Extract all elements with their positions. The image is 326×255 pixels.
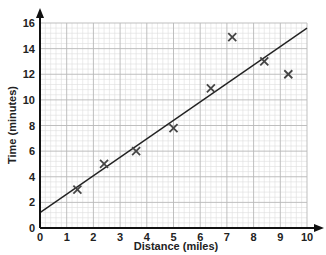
x-tick-label: 3 (117, 231, 123, 243)
x-tick-label: 7 (224, 231, 230, 243)
y-tick-label: 16 (23, 17, 35, 29)
x-tick-label: 9 (277, 231, 283, 243)
x-axis-arrow-icon (314, 224, 324, 232)
y-axis-arrow-icon (36, 8, 44, 18)
y-tick-label: 10 (23, 94, 35, 106)
y-axis-title: Time (minutes) (6, 86, 18, 164)
y-tick-label: 6 (29, 145, 35, 157)
y-tick-label: 12 (23, 68, 35, 80)
y-tick-label: 8 (29, 120, 35, 132)
x-tick-label: 8 (251, 231, 257, 243)
x-tick-label: 10 (301, 231, 313, 243)
y-tick-label: 4 (29, 171, 36, 183)
x-tick-label: 1 (64, 231, 70, 243)
y-tick-label: 0 (29, 222, 35, 234)
y-tick-label: 14 (23, 43, 36, 55)
y-tick-label: 2 (29, 196, 35, 208)
scatter-chart: 012345678910 0246810121416 Distance (mil… (0, 0, 326, 255)
x-tick-label: 0 (37, 231, 43, 243)
x-axis-title: Distance (miles) (134, 240, 219, 252)
x-tick-label: 2 (90, 231, 96, 243)
axes (36, 8, 324, 232)
y-tick-labels: 0246810121416 (23, 17, 36, 234)
